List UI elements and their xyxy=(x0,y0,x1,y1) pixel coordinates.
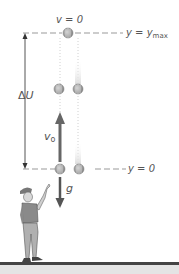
initial-velocity-label: vo xyxy=(44,130,56,144)
ball-icon xyxy=(73,84,83,94)
ground xyxy=(0,262,179,274)
y-max-label: y = ymax xyxy=(125,27,168,40)
velocity-arrow-up-icon xyxy=(55,112,65,162)
ball-icon xyxy=(55,164,65,174)
person-icon xyxy=(20,184,50,262)
gravity-label: g xyxy=(66,182,73,195)
y-zero-label: y = 0 xyxy=(127,163,155,174)
projectile-energy-diagram: v = 0 y = ymax y = 0 ΔU vo g xyxy=(0,0,179,274)
delta-u-label: ΔU xyxy=(18,89,34,102)
trajectory-trails xyxy=(60,38,81,164)
ball-icon xyxy=(54,84,64,94)
ball-icon xyxy=(63,28,73,38)
gravity-arrow-down-icon xyxy=(56,177,65,208)
ball-icon xyxy=(74,164,84,174)
top-velocity-label: v = 0 xyxy=(56,14,83,25)
